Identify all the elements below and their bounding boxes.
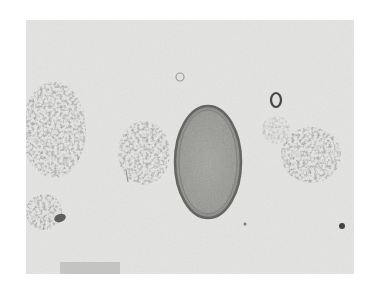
- micrograph: [26, 20, 354, 274]
- micrograph-drawing: [26, 20, 354, 274]
